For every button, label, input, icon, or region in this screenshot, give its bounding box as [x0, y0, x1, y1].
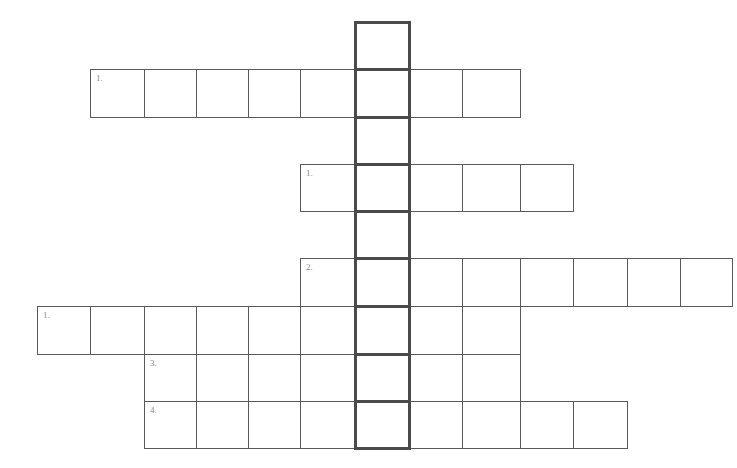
crossword-cell[interactable] [462, 401, 521, 449]
crossword-cell[interactable]: 1. [300, 164, 356, 212]
crossword-cell[interactable] [409, 354, 463, 402]
crossword-cell[interactable] [520, 401, 574, 449]
key-column-cell[interactable] [354, 257, 411, 308]
key-column-cell[interactable] [354, 400, 411, 450]
crossword-cell[interactable]: 3. [144, 354, 197, 402]
crossword-cell[interactable] [300, 354, 356, 402]
crossword-cell[interactable] [573, 401, 628, 449]
key-column-cell[interactable] [354, 305, 411, 356]
crossword-cell[interactable] [462, 306, 521, 355]
crossword-cell[interactable] [144, 306, 197, 355]
crossword-cell[interactable] [248, 306, 301, 355]
crossword-cell[interactable] [409, 164, 463, 212]
crossword-cell[interactable]: 1. [37, 306, 91, 355]
crossword-cell[interactable] [248, 354, 301, 402]
crossword-cell[interactable] [300, 401, 356, 449]
crossword-cell[interactable] [462, 164, 521, 212]
crossword-cell[interactable] [520, 258, 574, 307]
crossword-cell[interactable] [409, 69, 463, 118]
key-column-cell[interactable] [354, 163, 411, 213]
crossword-cell[interactable] [248, 69, 301, 118]
crossword-cell[interactable] [196, 69, 249, 118]
crossword-cell[interactable] [680, 258, 733, 307]
crossword-cell[interactable]: 4. [144, 401, 197, 449]
crossword-cell[interactable] [196, 306, 249, 355]
key-column-cell[interactable] [354, 353, 411, 403]
clue-number: 2. [306, 263, 313, 272]
crossword-cell[interactable] [573, 258, 628, 307]
crossword-cell[interactable] [300, 306, 356, 355]
clue-number: 3. [150, 359, 157, 368]
clue-number: 1. [96, 74, 103, 83]
crossword-grid: 1.1.2.1.3.4. [0, 0, 737, 468]
key-column-cell[interactable] [354, 68, 411, 119]
clue-number: 4. [150, 406, 157, 415]
crossword-cell[interactable] [409, 258, 463, 307]
crossword-cell[interactable] [462, 258, 521, 307]
key-column-cell[interactable] [354, 210, 411, 260]
clue-number: 1. [306, 169, 313, 178]
crossword-cell[interactable] [144, 69, 197, 118]
clue-number: 1. [43, 311, 50, 320]
crossword-cell[interactable] [462, 69, 521, 118]
crossword-cell[interactable] [409, 306, 463, 355]
crossword-cell[interactable] [196, 401, 249, 449]
crossword-cell[interactable] [462, 354, 521, 402]
crossword-cell[interactable] [520, 164, 574, 212]
key-column-cell[interactable] [354, 21, 411, 71]
crossword-cell[interactable] [409, 401, 463, 449]
crossword-cell[interactable] [300, 69, 356, 118]
crossword-cell[interactable] [90, 306, 145, 355]
crossword-cell[interactable] [627, 258, 681, 307]
crossword-cell[interactable] [196, 354, 249, 402]
crossword-cell[interactable] [248, 401, 301, 449]
crossword-cell[interactable]: 2. [300, 258, 356, 307]
key-column-cell[interactable] [354, 116, 411, 166]
crossword-cell[interactable]: 1. [90, 69, 145, 118]
